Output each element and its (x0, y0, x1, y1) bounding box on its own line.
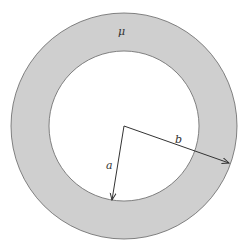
mu-label: μ (118, 25, 125, 38)
b-label: b (175, 133, 182, 146)
annulus-diagram: μ a b (0, 0, 248, 251)
a-label: a (106, 159, 113, 172)
